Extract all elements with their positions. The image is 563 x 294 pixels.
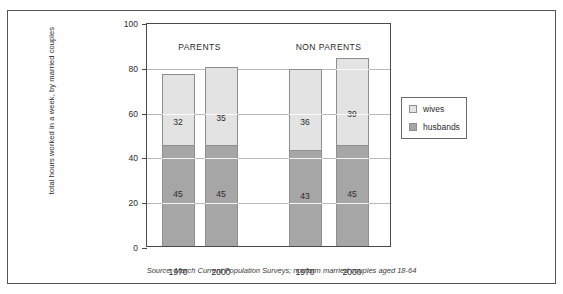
y-axis-title: total hours worked in a week, by married…	[47, 11, 56, 211]
legend-label-wives: wives	[423, 104, 444, 114]
bar-value-label: 35	[216, 114, 225, 123]
y-tick-label: 20	[129, 198, 138, 208]
y-tick-label: 0	[133, 243, 138, 253]
y-tick-mark	[142, 248, 147, 249]
y-tick-mark	[142, 114, 147, 115]
bar-stack: 3245	[162, 74, 195, 246]
y-tick-label: 60	[129, 109, 138, 119]
y-tick-label: 40	[129, 153, 138, 163]
y-tick-mark	[142, 203, 147, 204]
y-tick-mark	[142, 24, 147, 25]
legend-swatch-wives	[409, 105, 417, 113]
bar-stack: 3945	[336, 58, 369, 246]
bar-value-label: 45	[216, 190, 225, 199]
bar-segment-husbands: 45	[205, 145, 238, 246]
bar-value-label: 39	[347, 110, 356, 119]
bar-value-label: 32	[173, 118, 182, 127]
bar-value-label: 43	[300, 192, 309, 201]
y-tick-label: 100	[124, 19, 138, 29]
legend-item-wives: wives	[409, 104, 466, 114]
bar-segment-wives: 32	[162, 74, 195, 146]
legend-label-husbands: husbands	[423, 122, 460, 132]
bar-stack: 3545	[205, 67, 238, 246]
bar-value-label: 36	[300, 118, 309, 127]
bar-value-label: 45	[173, 190, 182, 199]
chart-figure: total hours worked in a week, by married…	[7, 10, 556, 284]
y-tick-label: 80	[129, 64, 138, 74]
chart-legend: wives husbands	[401, 97, 467, 139]
bar-segment-husbands: 45	[336, 145, 369, 246]
bar-segment-wives: 39	[336, 58, 369, 145]
plot-area: 020406080100 PARENTSNON PARENTS 32453545…	[146, 23, 391, 247]
bar-value-label: 45	[347, 190, 356, 199]
source-note: Source: March Current Population Surveys…	[8, 266, 555, 275]
group-header: PARENTS	[178, 42, 221, 52]
legend-swatch-husbands	[409, 123, 417, 131]
bar-segment-husbands: 45	[162, 145, 195, 246]
bar-stack: 3643	[289, 69, 322, 246]
bar-segment-husbands: 43	[289, 150, 322, 246]
bar-segment-wives: 36	[289, 69, 322, 150]
y-tick-mark	[142, 69, 147, 70]
bar-segment-wives: 35	[205, 67, 238, 145]
y-tick-mark	[142, 158, 147, 159]
legend-item-husbands: husbands	[409, 122, 466, 132]
group-header: NON PARENTS	[296, 42, 362, 52]
